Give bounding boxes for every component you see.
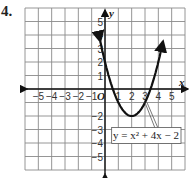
origin-label: O — [97, 90, 105, 102]
y-tick-label: 1 — [97, 71, 103, 82]
parabola-graph: −5−4−3−2−11234554321−2−3−4−5Oxyy = x² + … — [0, 0, 192, 178]
x-tick-label: 5 — [169, 91, 175, 102]
leader-line — [147, 103, 158, 129]
leader-line — [145, 103, 155, 129]
y-axis-label: y — [107, 7, 114, 19]
y-tick-label: −3 — [92, 125, 104, 136]
x-tick-label: −2 — [73, 91, 85, 102]
y-tick-label: −4 — [92, 138, 104, 149]
x-tick-label: 4 — [156, 91, 162, 102]
equation-label: y = x² + 4x − 2 — [113, 129, 179, 141]
y-tick-label: 4 — [97, 30, 103, 41]
y-tick-label: 2 — [97, 57, 103, 68]
y-tick-label: 5 — [97, 17, 103, 28]
x-tick-label: −5 — [33, 91, 45, 102]
y-tick-label: −2 — [92, 111, 104, 122]
x-axis-label: x — [178, 76, 185, 88]
y-tick-label: −5 — [92, 152, 104, 163]
x-tick-label: −4 — [46, 91, 58, 102]
x-tick-label: −3 — [59, 91, 71, 102]
x-tick-label: 2 — [129, 91, 135, 102]
